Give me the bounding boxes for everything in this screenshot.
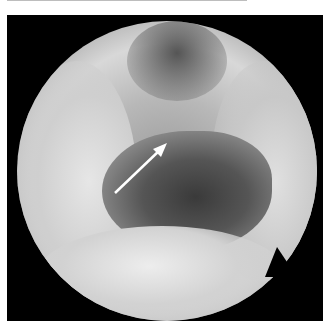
endoscopic-photo: [7, 15, 323, 321]
annotation-arrow-icon: [7, 15, 323, 321]
top-rule: [7, 0, 247, 1]
